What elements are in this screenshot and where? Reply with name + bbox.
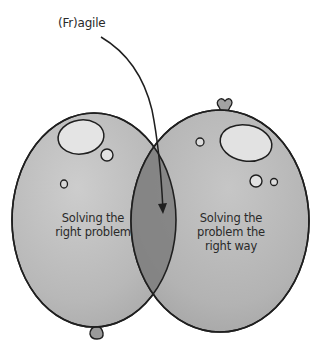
right-set-label: Solving the problem the right way [178,211,284,253]
annotation-label: (Fr)agile [58,16,106,30]
left-set-label: Solving the right problem [38,211,148,239]
right-set-label-line: right way [178,239,284,253]
venn-diagram [0,0,325,356]
right-set-label-line: problem the [178,225,284,239]
left-set-label-line: Solving the [38,211,148,225]
right-set-label-line: Solving the [178,211,284,225]
left-set-label-line: right problem [38,225,148,239]
